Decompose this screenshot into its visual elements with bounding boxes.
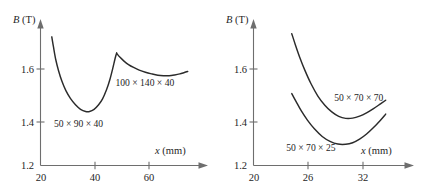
figure-container: 1.6 1.4 1.2 20 40 60 B (T) x (mm) 50 × 9… [0,0,421,194]
x-tick-label-20: 20 [249,172,260,183]
y-axis-right [250,19,256,166]
x-tick-label-26: 26 [303,172,314,183]
chart-panel-left: 1.6 1.4 1.2 20 40 60 B (T) x (mm) 50 × 9… [0,0,211,194]
y-tick-label-1-6: 1.6 [21,64,34,75]
data-curve-100x140x40 [117,53,188,75]
y-axis-left [37,19,43,166]
x-tick-label-40: 40 [90,172,101,183]
chart-panel-right: 1.6 1.4 1.2 20 26 32 B (T) x (mm) 50 × 7… [211,0,421,194]
x-axis-title-unit: (mm) [160,145,186,157]
y-axis-arrow-icon [250,19,256,29]
y-tick-label-1-2: 1.2 [21,160,34,171]
data-curve-50x90x40 [52,37,117,112]
x-axis-title-left: x (mm) [154,145,186,157]
y-axis-title-left: B (T) [13,14,36,26]
x-axis-left [41,162,209,168]
x-axis-arrow-icon [405,162,415,168]
data-curve-50x70x70 [292,34,386,119]
x-tick-label-60: 60 [144,172,155,183]
x-axis-arrow-icon [199,162,209,168]
x-tick-label-32: 32 [358,172,369,183]
series-label-50x70x25: 50 × 70 × 25 [286,142,335,153]
y-tick-label-1-6: 1.6 [234,64,247,75]
x-tick-label-20: 20 [36,172,47,183]
x-axis-title-unit: (mm) [366,145,392,157]
y-tick-label-1-2: 1.2 [234,160,247,171]
series-label-50x70x70: 50 × 70 × 70 [334,92,383,103]
chart-svg-left: 1.6 1.4 1.2 20 40 60 B (T) x (mm) 50 × 9… [0,0,211,194]
x-axis-title-right: x (mm) [360,145,392,157]
chart-svg-right: 1.6 1.4 1.2 20 26 32 B (T) x (mm) 50 × 7… [211,0,421,194]
y-axis-title-unit: (T) [232,14,249,26]
series-label-100x140x40: 100 × 140 × 40 [115,77,174,88]
y-axis-arrow-icon [37,19,43,29]
y-tick-label-1-4: 1.4 [234,117,248,128]
y-axis-title-right: B (T) [226,14,249,26]
x-axis-right [254,162,415,168]
y-axis-title-unit: (T) [19,14,36,26]
series-label-50x90x40: 50 × 90 × 40 [54,118,103,129]
y-tick-label-1-4: 1.4 [21,117,35,128]
